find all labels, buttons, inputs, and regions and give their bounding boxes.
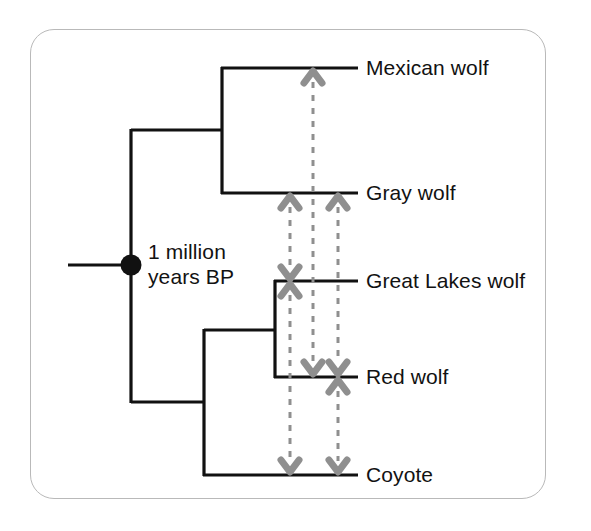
root-node-age-annotation: 1 million years BP (148, 240, 234, 289)
cladogram-figure: Mexican wolf Gray wolf Great Lakes wolf … (0, 0, 591, 531)
cladogram-drawing (0, 0, 591, 531)
gene-flow-mexican-red (304, 71, 322, 374)
gene-flow-arrows (281, 71, 347, 472)
taxon-label-red-wolf: Red wolf (366, 366, 449, 387)
taxon-label-mexican-wolf: Mexican wolf (366, 57, 489, 78)
root-node-dot (121, 255, 142, 276)
gene-flow-gray-greatlakes (281, 196, 299, 279)
taxon-label-gray-wolf: Gray wolf (366, 182, 456, 203)
taxon-label-great-lakes-wolf: Great Lakes wolf (366, 270, 525, 291)
taxon-label-coyote: Coyote (366, 464, 433, 485)
gene-flow-red-coyote (329, 380, 347, 472)
gene-flow-gray-red (329, 196, 347, 374)
